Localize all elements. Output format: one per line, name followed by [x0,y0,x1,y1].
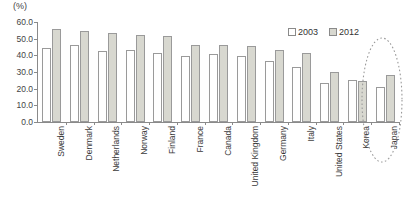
x-axis-tick-mark [316,122,317,125]
x-axis-tick-mark [177,122,178,125]
y-axis-tick-label: 50.0 [16,34,33,44]
x-axis-label-finland: Finland [167,126,177,154]
x-axis-label-japan: Japan [389,126,399,149]
bar-group [205,22,233,122]
bar-2003[interactable] [70,45,79,123]
x-axis-label-korea: Korea [361,126,371,149]
bar-2012[interactable] [330,72,339,122]
x-axis-label-sweden: Sweden [56,126,66,157]
bar-group [94,22,122,122]
x-axis-tick-mark [288,122,289,125]
bar-2012[interactable] [302,53,311,122]
bar-2003[interactable] [181,56,190,122]
bar-group [149,22,177,122]
x-axis-tick-mark [260,122,261,125]
legend-label-2003: 2003 [298,27,318,37]
bar-2003[interactable] [292,67,301,122]
bar-group [232,22,260,122]
bar-group [121,22,149,122]
x-axis-line [37,122,399,123]
x-axis-tick-mark [66,122,67,125]
bar-2012[interactable] [247,46,256,122]
bar-2012[interactable] [52,29,61,122]
bar-2003[interactable] [153,53,162,122]
bar-2012[interactable] [219,45,228,122]
bar-group [177,22,205,122]
bar-group [38,22,66,122]
bar-group [371,22,399,122]
x-axis-label-italy: Italy [306,126,316,142]
bar-chart: (%) 0.010.020.030.040.050.060.0 SwedenDe… [0,0,412,207]
bar-2012[interactable] [275,50,284,122]
bar-2012[interactable] [80,31,89,122]
y-axis-tick-label: 30.0 [16,67,33,77]
x-axis-tick-mark [399,122,400,125]
x-axis-tick-mark [232,122,233,125]
x-axis-label-germany: Germany [278,126,288,161]
x-axis-label-canada: Canada [223,126,233,156]
x-axis-tick-mark [343,122,344,125]
bar-2003[interactable] [265,61,274,122]
bar-2012[interactable] [358,81,367,122]
bar-group [66,22,94,122]
bar-2003[interactable] [237,56,246,122]
y-axis-tick-label: 60.0 [16,17,33,27]
bar-group [343,22,371,122]
x-axis-label-france: France [195,126,205,152]
x-axis-label-united-states: United States [334,126,344,177]
bar-2012[interactable] [108,33,117,122]
bar-2003[interactable] [126,50,135,122]
x-axis-tick-mark [94,122,95,125]
x-axis-label-norway: Norway [139,126,149,155]
open-square-swatch-icon [288,28,296,36]
bar-2003[interactable] [98,51,107,122]
bar-group [288,22,316,122]
x-axis-tick-mark [371,122,372,125]
y-axis-tick-label: 10.0 [16,100,33,110]
x-axis-tick-mark [205,122,206,125]
bar-2003[interactable] [320,83,329,122]
chart-legend: 2003 2012 [288,27,359,37]
legend-item-2012[interactable]: 2012 [329,27,359,37]
legend-item-2003[interactable]: 2003 [288,27,318,37]
bar-group [260,22,288,122]
bar-2012[interactable] [163,36,172,122]
y-axis: 0.010.020.030.040.050.060.0 [0,0,36,207]
bar-group [316,22,344,122]
bar-2012[interactable] [386,75,395,122]
bar-2003[interactable] [348,80,357,122]
bar-2003[interactable] [209,54,218,122]
x-axis-label-united-kingdom: United Kingdom [250,126,260,186]
bar-2003[interactable] [376,87,385,122]
x-axis-tick-mark [149,122,150,125]
plot-area [38,22,399,122]
filled-square-swatch-icon [329,28,337,36]
bar-2012[interactable] [136,35,145,123]
y-axis-tick-label: 20.0 [16,84,33,94]
bar-2012[interactable] [191,45,200,123]
x-axis-label-netherlands: Netherlands [111,126,121,172]
y-axis-tick-label: 0.0 [21,117,33,127]
y-axis-tick-label: 40.0 [16,50,33,60]
x-axis-tick-mark [121,122,122,125]
x-axis-category-labels: SwedenDenmarkNetherlandsNorwayFinlandFra… [38,126,399,206]
x-axis-label-denmark: Denmark [84,126,94,160]
legend-label-2012: 2012 [339,27,359,37]
bar-2003[interactable] [42,48,51,122]
